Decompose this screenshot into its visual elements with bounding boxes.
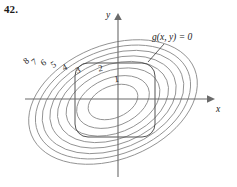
contour-label-5: 5 bbox=[49, 59, 59, 70]
figure-container: 42. x y g(x, y) = 0 12345678 bbox=[0, 0, 237, 187]
constraint-label: g(x, y) = 0 bbox=[152, 32, 192, 43]
contour-label-1: 1 bbox=[114, 74, 120, 85]
contour-label-7: 7 bbox=[29, 56, 39, 67]
y-axis-arrowhead bbox=[114, 13, 122, 20]
y-axis-label: y bbox=[105, 10, 111, 20]
x-axis-label: x bbox=[215, 104, 221, 114]
constraint-leader-line bbox=[148, 44, 164, 62]
contour-map-figure: x y g(x, y) = 0 12345678 bbox=[0, 0, 237, 187]
contour-label-2: 2 bbox=[97, 63, 103, 74]
x-axis-arrowhead bbox=[207, 95, 215, 103]
contour-label-6: 6 bbox=[38, 57, 48, 68]
level-curve-7 bbox=[18, 23, 207, 180]
level-curve-1 bbox=[83, 77, 143, 126]
